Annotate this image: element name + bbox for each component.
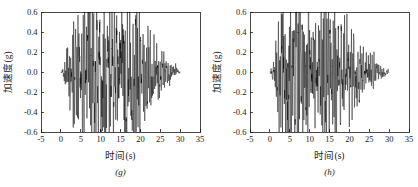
x-axis-label: 时间(s)	[314, 150, 344, 162]
y-tick-label: 0.0	[27, 67, 38, 77]
x-tick-label: 15	[325, 134, 334, 144]
x-tick-label: 35	[405, 134, 414, 144]
y-tick-label: 0.6	[236, 7, 247, 17]
x-tick-label: 0	[59, 134, 63, 144]
y-tick-label: 0.2	[236, 47, 247, 57]
y-tick-label: -0.6	[233, 127, 246, 137]
panel-label: (h)	[324, 167, 335, 177]
y-tick-label: 0.0	[236, 67, 247, 77]
x-tick-label: 30	[385, 134, 394, 144]
x-tick-label: 25	[365, 134, 374, 144]
x-tick-label: 20	[136, 134, 145, 144]
chart-panel-h: -505101520253035-0.6-0.4-0.20.00.20.40.6…	[209, 0, 418, 187]
y-tick-label: 0.4	[27, 27, 38, 37]
chart-panel-g: -505101520253035-0.6-0.4-0.20.00.20.40.6…	[0, 0, 209, 187]
x-tick-label: 25	[156, 134, 165, 144]
y-tick-label: 0.2	[27, 47, 38, 57]
y-tick-label: -0.6	[24, 127, 37, 137]
x-tick-label: -5	[246, 134, 253, 144]
x-tick-label: 20	[345, 134, 354, 144]
x-axis-label: 时间(s)	[105, 150, 135, 162]
x-tick-label: -5	[37, 134, 44, 144]
y-axis-label: 加速度(g)	[2, 51, 14, 92]
x-tick-label: 30	[176, 134, 185, 144]
chart-svg-g: -505101520253035-0.6-0.4-0.20.00.20.40.6…	[0, 0, 209, 187]
acceleration-time-history-line	[270, 12, 389, 132]
x-tick-label: 10	[96, 134, 105, 144]
y-tick-label: 0.4	[236, 27, 247, 37]
x-tick-label: 15	[116, 134, 125, 144]
x-tick-label: 35	[196, 134, 205, 144]
x-tick-label: 5	[288, 134, 292, 144]
acceleration-time-history-line	[61, 12, 180, 132]
y-tick-label: -0.2	[24, 87, 37, 97]
figure-accelerogram-pair: -505101520253035-0.6-0.4-0.20.00.20.40.6…	[0, 0, 418, 187]
y-tick-label: 0.6	[27, 7, 38, 17]
y-tick-label: -0.2	[233, 87, 246, 97]
y-tick-label: -0.4	[233, 107, 247, 117]
x-tick-label: 0	[268, 134, 272, 144]
panel-label: (g)	[115, 167, 126, 177]
x-tick-label: 10	[305, 134, 314, 144]
y-axis-label: 加速度(g)	[211, 51, 223, 92]
x-tick-label: 5	[79, 134, 83, 144]
y-tick-label: -0.4	[24, 107, 38, 117]
chart-svg-h: -505101520253035-0.6-0.4-0.20.00.20.40.6…	[209, 0, 418, 187]
